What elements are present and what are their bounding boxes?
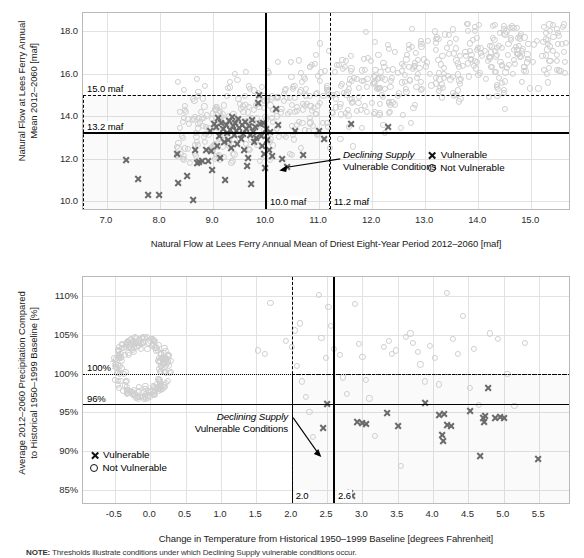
x-tick-label: 15.0: [521, 214, 539, 225]
note-text: Thresholds illustrate conditions under w…: [52, 548, 356, 557]
x-tick-label: 13.0: [415, 214, 433, 225]
supply-y-axis-title: Natural Flow at Lees Ferry AnnualMean 20…: [16, 2, 39, 180]
x-tick-label: 12.0: [362, 214, 380, 225]
legend-label: Not Vulnerable: [440, 162, 504, 174]
x-tick-label: 5.5: [532, 508, 545, 519]
legend-label: Not Vulnerable: [102, 462, 166, 474]
x-tick-label: 1.5: [249, 508, 262, 519]
x-tick-label: 5.0: [496, 508, 509, 519]
climate-plot-area: 96%2.6100%2.0Declining SupplyVulnerable …: [82, 276, 570, 504]
y-tick-label: 14.0: [40, 110, 78, 121]
y-tick-label: 12.0: [40, 152, 78, 163]
y-axis-title-line: Natural Flow at Lees Ferry Annual: [16, 2, 28, 180]
climate-x-axis-title: Change in Temperature from Historical 19…: [159, 533, 493, 544]
y-tick-label: 100%: [40, 367, 78, 378]
x-tick-label: 10.0: [256, 214, 274, 225]
x-tick-label: 2.0: [284, 508, 297, 519]
y-tick-label: 90%: [40, 444, 78, 455]
legend-circle-icon: [428, 164, 436, 172]
supply-chart-panel: Natural Flow at Lees Ferry AnnualMean 20…: [0, 0, 584, 250]
legend-x-icon: [428, 151, 437, 160]
x-tick-label: 4.0: [426, 508, 439, 519]
y-tick-label: 10.0: [40, 195, 78, 206]
figure-note: NOTE: Thresholds illustrate conditions u…: [26, 548, 357, 558]
climate-chart-panel: Average 2012–2060 Precipitation Compared…: [0, 250, 584, 558]
chart-legend: VulnerableNot Vulnerable: [90, 449, 167, 474]
x-tick-label: 9.0: [205, 214, 218, 225]
y-axis-title-line: Average 2012–2060 Precipitation Compared: [16, 266, 28, 500]
y-tick-label: 110%: [40, 290, 78, 301]
x-tick-label: 0.5: [178, 508, 191, 519]
supply-plot-area: 13.2 maf10.0 maf15.0 maf11.2 mafDeclinin…: [82, 12, 570, 210]
x-tick-label: 8.0: [152, 214, 165, 225]
note-label: NOTE:: [26, 548, 50, 557]
x-tick-label: 1.0: [213, 508, 226, 519]
legend-x-icon: [90, 451, 99, 460]
chart-legend: VulnerableNot Vulnerable: [428, 149, 505, 174]
x-tick-label: 3.5: [390, 508, 403, 519]
y-axis-title-line: Mean 2012–2060 [maf]: [28, 2, 40, 180]
x-tick-label: 3.0: [355, 508, 368, 519]
x-tick-label: 14.0: [468, 214, 486, 225]
y-axis-title-line: to Historical 1950–1999 Baseline [%]: [28, 266, 40, 500]
legend-entry: Vulnerable: [90, 449, 167, 461]
legend-entry: Not Vulnerable: [90, 462, 167, 474]
legend-entry: Not Vulnerable: [428, 162, 505, 174]
y-tick-label: 18.0: [40, 25, 78, 36]
legend-circle-icon: [90, 464, 98, 472]
legend-label: Vulnerable: [441, 149, 487, 161]
x-tick-label: 0.0: [143, 508, 156, 519]
x-tick-label: 11.0: [309, 214, 326, 225]
x-tick-label: 7.0: [99, 214, 112, 225]
y-tick-label: 95%: [40, 406, 78, 417]
x-tick-label: -0.5: [106, 508, 122, 519]
supply-x-axis-title: Natural Flow at Lees Ferry Annual Mean o…: [151, 238, 502, 249]
y-tick-label: 85%: [40, 483, 78, 494]
climate-y-axis-title: Average 2012–2060 Precipitation Compared…: [16, 266, 39, 500]
x-tick-label: 2.5: [320, 508, 333, 519]
legend-label: Vulnerable: [103, 449, 149, 461]
y-tick-label: 16.0: [40, 67, 78, 78]
y-tick-label: 105%: [40, 328, 78, 339]
legend-entry: Vulnerable: [428, 149, 505, 161]
annotation-arrow: [83, 13, 569, 209]
x-tick-label: 4.5: [461, 508, 474, 519]
